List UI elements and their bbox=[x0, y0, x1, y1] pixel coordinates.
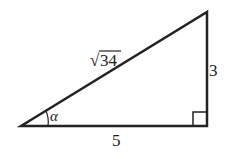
adjacent-side-label: 5 bbox=[112, 131, 121, 150]
opposite-side-label: 3 bbox=[209, 61, 218, 80]
angle-alpha-label: α bbox=[50, 108, 59, 124]
right-angle-marker bbox=[193, 112, 207, 126]
radical-sign: √ bbox=[90, 51, 100, 70]
radicand: 34 bbox=[100, 51, 118, 70]
angle-arc bbox=[46, 111, 48, 126]
right-triangle-diagram: α 5 3 √ 34 bbox=[0, 0, 229, 159]
hypotenuse-label: √ 34 bbox=[90, 51, 121, 70]
